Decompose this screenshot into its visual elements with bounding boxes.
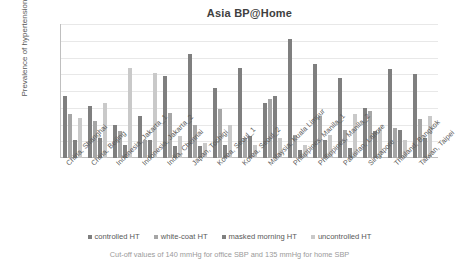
legend-swatch-icon — [222, 235, 226, 239]
x-label-slot: China, Beijing — [88, 160, 113, 222]
x-label-slot: Korea, Seoul_2 — [239, 160, 264, 222]
x-label-slot: Malaysia, Kuala Limpur — [265, 160, 290, 222]
legend-item[interactable]: uncontrolled HT — [311, 232, 372, 241]
chart-legend: controlled HTwhite-coat HTmasked morning… — [0, 232, 459, 241]
legend-item[interactable]: masked morning HT — [222, 232, 297, 241]
x-axis-labels: China, ShanghaiChina, BeijingIndonesia, … — [60, 160, 441, 222]
x-label-slot: Philippines, Manila_1 — [290, 160, 315, 222]
x-label-slot: Philippines, Manila_2 — [315, 160, 340, 222]
y-axis-title: Prevalence of hypertension status (%) — [20, 0, 38, 99]
x-label-slot: China, Shanghai — [63, 160, 88, 222]
x-label-slot: Indonesia, Jakarta_2 — [139, 160, 164, 222]
x-label-slot: Indonesia, Jakarta_1 — [113, 160, 138, 222]
x-label-slot: Korea, Seoul_1 — [214, 160, 239, 222]
legend-swatch-icon — [154, 235, 158, 239]
legend-label: uncontrolled HT — [318, 232, 372, 241]
bar — [63, 96, 67, 158]
legend-label: controlled HT — [95, 232, 140, 241]
legend-item[interactable]: white-coat HT — [154, 232, 208, 241]
bar — [68, 114, 72, 158]
legend-label: white-coat HT — [161, 232, 208, 241]
legend-swatch-icon — [88, 235, 92, 239]
chart-footnote: Cut-off values of 140 mmHg for office SB… — [0, 250, 459, 259]
x-label-slot: Singapore — [365, 160, 390, 222]
x-label-slot: Japan, Tochigi — [189, 160, 214, 222]
chart-container: Asia BP@Home Prevalence of hypertension … — [0, 0, 459, 271]
bar-group — [388, 24, 413, 158]
x-label-slot: India, Chennai — [164, 160, 189, 222]
legend-label: masked morning HT — [229, 232, 297, 241]
legend-item[interactable]: controlled HT — [88, 232, 140, 241]
x-label-slot: Taiwan, Taipei — [416, 160, 441, 222]
chart-title: Asia BP@Home — [0, 7, 459, 19]
legend-swatch-icon — [311, 235, 315, 239]
bar-group — [63, 24, 88, 158]
x-label-slot: Pakistan, Lahore — [340, 160, 365, 222]
x-label-slot: Thailand, Bangkok — [391, 160, 416, 222]
